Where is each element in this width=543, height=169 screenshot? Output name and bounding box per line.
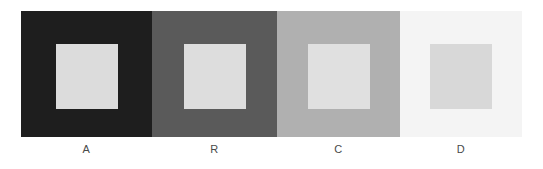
inner-square-a xyxy=(56,44,118,109)
panel-label-a: A xyxy=(21,141,152,161)
panel-label-c: C xyxy=(277,141,400,161)
figure-root: A R C D xyxy=(0,0,543,169)
panel-label-row: A R C D xyxy=(21,141,522,161)
inner-square-c xyxy=(308,44,370,109)
panel-d xyxy=(400,11,522,137)
panel-c xyxy=(277,11,400,137)
panel-r xyxy=(152,11,277,137)
inner-square-r xyxy=(184,44,246,109)
panel-label-d: D xyxy=(400,141,522,161)
panel-a xyxy=(21,11,152,137)
inner-square-d xyxy=(430,44,492,109)
panel-strip xyxy=(21,11,522,137)
panel-label-r: R xyxy=(152,141,277,161)
